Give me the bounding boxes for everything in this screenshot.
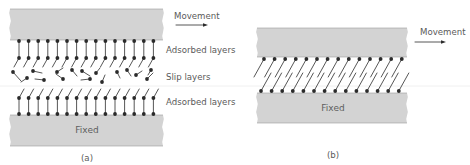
- molecule-tail: [139, 58, 144, 67]
- molecule-tail: [48, 89, 53, 98]
- molecule-tail: [43, 58, 48, 67]
- slip-molecule-tail: [136, 71, 142, 75]
- slip-molecule-tail: [56, 74, 63, 79]
- molecule-tail: [144, 89, 149, 98]
- molecule-tail: [100, 58, 105, 67]
- molecule-tail: [72, 58, 77, 67]
- adsorbed-layers-label-bottom: Adsorbed layers: [166, 98, 235, 107]
- molecule-tail: [293, 73, 303, 91]
- molecule-tail: [62, 58, 67, 67]
- molecule-tail: [303, 73, 313, 91]
- molecule-tail: [282, 73, 292, 91]
- movement-label-b: Movement: [420, 28, 466, 37]
- caption-a: (a): [81, 154, 93, 163]
- molecule-tail: [153, 89, 158, 98]
- movement-arrow-icon-a-head: [203, 23, 208, 27]
- slip-molecule-tail: [72, 70, 77, 76]
- adsorbed-layers-label-top: Adsorbed layers: [166, 46, 235, 55]
- molecule-tail: [86, 89, 91, 98]
- molecule-tail: [125, 89, 130, 98]
- molecule-tail: [307, 59, 317, 77]
- molecule-tail: [52, 58, 57, 67]
- slip-molecule-tail: [57, 68, 63, 72]
- molecule-tail: [388, 73, 398, 91]
- upper-block-a: [9, 9, 164, 40]
- movement-label-a: Movement: [174, 12, 220, 21]
- molecule-tail: [314, 73, 324, 91]
- upper-block-b: [256, 28, 408, 57]
- caption-b: (b): [327, 151, 339, 160]
- molecule-tail: [265, 59, 275, 77]
- molecule-tail: [272, 73, 282, 91]
- molecule-tail: [339, 59, 349, 77]
- molecule-tail: [148, 58, 153, 67]
- slip-molecule-tail: [13, 72, 21, 81]
- molecule-tail: [96, 89, 101, 98]
- molecule-tail: [254, 59, 264, 77]
- molecule-tail: [134, 89, 139, 98]
- molecule-tail: [392, 59, 402, 77]
- molecule-tail: [328, 59, 338, 77]
- slip-molecule-tail: [96, 68, 100, 73]
- molecule-tail: [360, 59, 370, 77]
- molecule-tail: [286, 59, 296, 77]
- molecule-tail: [399, 73, 409, 91]
- molecule-tail: [325, 73, 335, 91]
- slip-molecule-tail: [21, 78, 27, 82]
- molecule-tail: [57, 89, 62, 98]
- molecule-tail: [371, 59, 381, 77]
- molecule-tail: [24, 58, 29, 67]
- molecule-tail: [356, 73, 366, 91]
- fixed-label-a: Fixed: [75, 126, 98, 135]
- molecule-tail: [105, 89, 110, 98]
- molecule-tail: [261, 73, 271, 91]
- fixed-label-b: Fixed: [321, 104, 344, 113]
- slip-molecule-tail: [127, 70, 131, 76]
- molecule-tail: [120, 58, 125, 67]
- molecule-tail: [38, 89, 43, 98]
- slip-layers-label: Slip layers: [166, 73, 210, 82]
- molecule-tail: [367, 73, 377, 91]
- molecule-tail: [275, 59, 285, 77]
- molecule-tail: [318, 59, 328, 77]
- molecule-tail: [115, 89, 120, 98]
- slip-molecule-tail: [82, 71, 90, 76]
- molecule-tail: [349, 59, 359, 77]
- slip-molecule-tail: [147, 73, 153, 79]
- movement-arrow-icon-b-head: [441, 40, 446, 44]
- molecule-tail: [91, 58, 96, 67]
- molecule-tail: [378, 73, 388, 91]
- molecule-tail: [77, 89, 82, 98]
- molecule-tail: [335, 73, 345, 91]
- boundary-lubrication-diagram: Movement Adsorbed layers Slip layers Ads…: [0, 0, 470, 165]
- panel-b: [254, 28, 446, 123]
- molecule-tail: [381, 59, 391, 77]
- molecule-tail: [19, 89, 24, 98]
- molecule-tail: [67, 89, 72, 98]
- molecule-tail: [296, 59, 306, 77]
- molecule-tail: [14, 58, 19, 67]
- molecule-tail: [129, 58, 134, 67]
- diagram-artwork: [0, 0, 470, 165]
- molecule-tail: [110, 58, 115, 67]
- molecule-tail: [346, 73, 356, 91]
- molecule-tail: [33, 58, 38, 67]
- molecule-tail: [29, 89, 34, 98]
- molecule-tail: [81, 58, 86, 67]
